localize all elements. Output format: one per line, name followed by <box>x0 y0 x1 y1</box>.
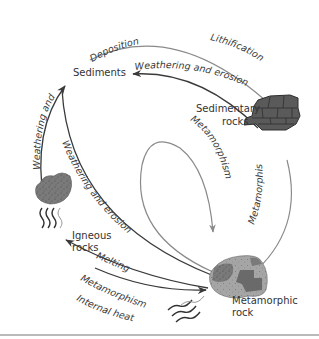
sediments-label: Sediments <box>73 67 126 78</box>
weathering-erosion-left-label: Weathering and erosion <box>0 0 58 170</box>
sedimentary-rocks-label-line1: Sedimentary <box>196 103 260 114</box>
lithification-label: Lithification <box>210 31 266 63</box>
metamorphic-rock-label-line2: rock <box>232 307 254 318</box>
metamorphic-rock-label-line1: Metamorphic <box>232 295 298 306</box>
metamorphic-heat-waves-icon <box>168 296 204 322</box>
metamorphic-rock-image <box>210 256 268 298</box>
rock-cycle-diagram: Sediments Sedimentary rocks Igneous rock… <box>0 0 319 339</box>
igneous-rocks-label-line2: rocks <box>72 242 99 253</box>
metamorphism-inner-loop-arrow <box>140 142 213 272</box>
sedimentary-rocks-label-line2: rocks <box>222 116 249 127</box>
igneous-heat-waves-icon <box>40 208 62 228</box>
deposition-label: Deposition <box>88 35 140 64</box>
igneous-rocks-label-line1: Igneous <box>72 230 111 241</box>
